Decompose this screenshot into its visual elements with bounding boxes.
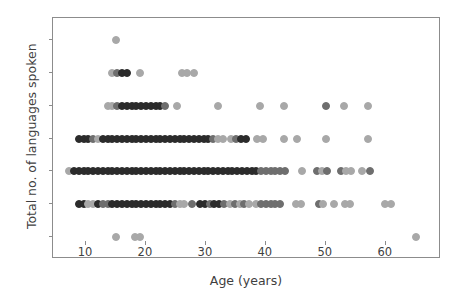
y-tick-mark bbox=[49, 39, 53, 40]
data-point bbox=[330, 200, 338, 208]
data-point bbox=[276, 200, 284, 208]
x-tick-mark bbox=[385, 241, 386, 245]
data-point bbox=[256, 102, 264, 110]
y-tick-mark bbox=[49, 203, 53, 204]
y-tick-mark bbox=[49, 236, 53, 237]
scatter-plot-figure: 1234567 Total no. of languages spoken 10… bbox=[0, 0, 455, 302]
data-point bbox=[297, 200, 305, 208]
data-point bbox=[190, 69, 198, 77]
data-point bbox=[123, 69, 131, 77]
data-point bbox=[280, 135, 288, 143]
data-point bbox=[112, 36, 120, 44]
data-point bbox=[281, 167, 289, 175]
data-point bbox=[161, 102, 169, 110]
data-point bbox=[219, 135, 227, 143]
data-point bbox=[322, 102, 330, 110]
data-point bbox=[364, 102, 372, 110]
x-tick-label: 60 bbox=[365, 247, 405, 259]
data-point bbox=[347, 167, 355, 175]
data-point bbox=[188, 200, 196, 208]
data-point bbox=[322, 135, 330, 143]
data-point bbox=[323, 167, 331, 175]
data-point bbox=[412, 233, 420, 241]
data-point bbox=[112, 233, 120, 241]
data-point bbox=[173, 102, 181, 110]
y-tick-mark bbox=[49, 170, 53, 171]
x-tick-mark bbox=[205, 241, 206, 245]
data-point bbox=[346, 200, 354, 208]
x-axis-title: Age (years) bbox=[52, 275, 440, 288]
data-point bbox=[214, 102, 222, 110]
y-tick-mark bbox=[49, 138, 53, 139]
x-tick-mark bbox=[145, 241, 146, 245]
data-point bbox=[319, 200, 327, 208]
x-tick-mark bbox=[325, 241, 326, 245]
plot-axes-frame bbox=[52, 17, 440, 258]
x-tick-label: 10 bbox=[65, 247, 105, 259]
data-point bbox=[387, 200, 395, 208]
y-tick-mark bbox=[49, 72, 53, 73]
x-tick-mark bbox=[265, 241, 266, 245]
data-point bbox=[364, 135, 372, 143]
x-tick-label: 30 bbox=[185, 247, 225, 259]
x-tick-label: 50 bbox=[305, 247, 345, 259]
data-point bbox=[280, 102, 288, 110]
x-tick-mark bbox=[85, 241, 86, 245]
data-point bbox=[242, 135, 250, 143]
y-axis-title: Total no. of languages spoken bbox=[26, 11, 39, 261]
data-point bbox=[136, 233, 144, 241]
data-point bbox=[366, 167, 374, 175]
x-tick-label: 20 bbox=[125, 247, 165, 259]
plot-data-area bbox=[53, 18, 439, 257]
data-point bbox=[340, 102, 348, 110]
data-point bbox=[358, 167, 366, 175]
data-point bbox=[293, 135, 301, 143]
data-point bbox=[259, 135, 267, 143]
data-point bbox=[136, 69, 144, 77]
x-tick-label: 40 bbox=[245, 247, 285, 259]
data-point bbox=[298, 167, 306, 175]
y-tick-mark bbox=[49, 105, 53, 106]
